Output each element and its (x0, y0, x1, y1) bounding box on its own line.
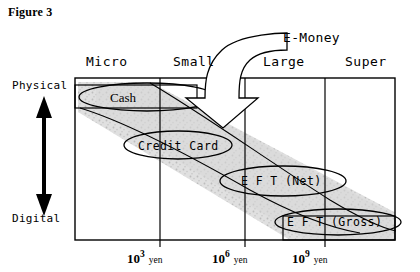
instrument-label-credit-card: Credit Card (138, 139, 219, 153)
x-axis-ticks (160, 240, 325, 247)
x-axis-tick-2-exponent: 9 (305, 249, 310, 259)
x-axis-tick-0-exponent: 3 (140, 249, 145, 259)
instrument-label-cash: Cash (110, 90, 136, 106)
x-axis-tick-1-base: 10 (212, 251, 225, 266)
column-header-large: Large (263, 54, 305, 69)
e-money-callout-label: E-Money (283, 30, 340, 45)
x-axis-tick-2: 109 yen (292, 249, 327, 267)
y-axis-top-label: Physical (12, 79, 67, 92)
diagram-canvas (0, 0, 420, 272)
column-header-micro: Micro (86, 54, 128, 69)
x-axis-tick-0-base: 10 (127, 251, 140, 266)
x-axis-tick-1-unit: yen (234, 255, 248, 265)
y-axis-bottom-label: Digital (12, 212, 60, 225)
x-axis-tick-1: 106 yen (212, 249, 247, 267)
column-header-super: Super (345, 54, 387, 69)
physical-digital-arrow (36, 96, 52, 216)
figure-diagram: Figure 3 Micro Small Large Super E-Money… (0, 0, 420, 272)
x-axis-tick-0: 103 yen (127, 249, 162, 267)
x-axis-tick-2-unit: yen (314, 255, 328, 265)
x-axis-tick-2-base: 10 (292, 251, 305, 266)
x-axis-tick-1-exponent: 6 (225, 249, 230, 259)
figure-label: Figure 3 (8, 5, 52, 20)
instrument-label-eft-net: E F T (Net) (241, 174, 322, 188)
x-axis-tick-0-unit: yen (149, 255, 163, 265)
column-header-small: Small (173, 54, 215, 69)
instrument-label-eft-gross: E F T (Gross) (287, 215, 382, 229)
